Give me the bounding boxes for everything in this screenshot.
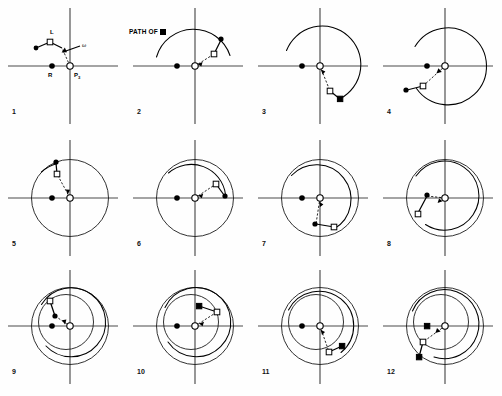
panel-number: 9 — [12, 368, 16, 376]
path-marker-icon — [160, 29, 166, 35]
panel-10: 10 — [125, 264, 250, 396]
panel-6: 6 — [125, 132, 250, 264]
panel-4: 4 — [375, 0, 500, 132]
panel-number: 5 — [12, 240, 16, 248]
panel-number: 10 — [137, 368, 145, 376]
panel-2: PATH OF 2 — [125, 0, 250, 132]
panel-5: 5 — [0, 132, 125, 264]
panel-number: 8 — [387, 240, 391, 248]
panel-12: 12 — [375, 264, 500, 396]
svg-text:P3: P3 — [74, 72, 81, 80]
svg-text:L: L — [50, 29, 54, 35]
path-of-label: PATH OF — [129, 28, 166, 35]
panel-9: 9 — [0, 264, 125, 396]
panel-number: 12 — [387, 368, 395, 376]
figure-sheet: L ω R P3 1 PATH OF 2 — [0, 0, 502, 396]
panel-7: 7 — [250, 132, 375, 264]
panel-3: 3 — [250, 0, 375, 132]
panel-8: 8 — [375, 132, 500, 264]
svg-text:R: R — [48, 72, 53, 78]
panel-1: L ω R P3 1 — [0, 0, 125, 132]
svg-text:ω: ω — [82, 42, 86, 48]
panel-number: 1 — [12, 108, 16, 116]
panel-11: 11 — [250, 264, 375, 396]
panel-number: 11 — [262, 368, 269, 376]
panel-number: 4 — [387, 108, 391, 116]
panel-number: 2 — [137, 108, 141, 116]
panel-number: 6 — [137, 240, 141, 248]
panel-number: 7 — [262, 240, 266, 248]
panel-number: 3 — [262, 108, 266, 116]
